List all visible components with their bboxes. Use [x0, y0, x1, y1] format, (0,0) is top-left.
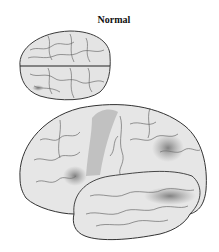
shaded-region-frontal [63, 166, 87, 186]
shaded-region-parietal [152, 134, 184, 162]
shaded-region-temporal [144, 187, 196, 205]
brain-superior-view [20, 31, 110, 100]
brain-illustration [0, 0, 219, 252]
shaded-region-superior [32, 85, 44, 91]
brain-lateral-view [20, 105, 206, 240]
